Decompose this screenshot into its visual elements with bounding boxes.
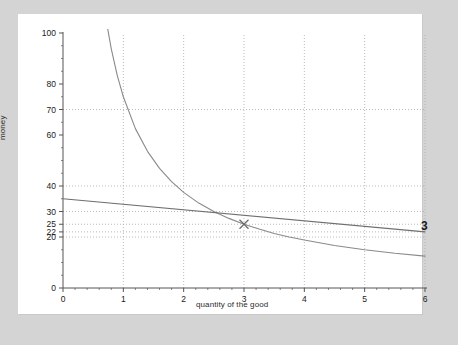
series-demand-curve [105,15,425,256]
y-tick-label: 0 [51,283,56,293]
series-group [63,15,425,256]
equilibrium-value-label: 3 [421,219,428,233]
x-tick-label: 4 [302,294,307,304]
screenshot-frame: 020222530406070801000123456 money quanti… [0,0,458,345]
y-tick-label: 30 [47,207,57,217]
x-tick-label: 6 [423,294,428,304]
y-tick-label: 80 [47,79,57,89]
y-tick-label: 70 [47,105,57,115]
y-tick-label: 25 [47,219,57,229]
chart-plot-svg: 020222530406070801000123456 [0,0,458,345]
x-tick-label: 5 [362,294,367,304]
y-tick-label: 100 [42,28,56,38]
x-tick-label: 0 [61,294,66,304]
y-tick-label: 60 [47,130,57,140]
x-tick-label: 1 [121,294,126,304]
y-tick-label: 40 [47,181,57,191]
x-axis-title: quantity of the good [196,300,268,309]
y-axis-title: money [0,115,7,140]
x-tick-label: 2 [181,294,186,304]
